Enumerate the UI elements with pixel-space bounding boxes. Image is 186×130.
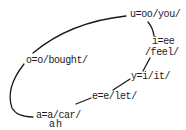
edge-e-a <box>76 98 91 104</box>
node-a-alt: ah <box>49 120 63 130</box>
node-y-label: y=i/it/ <box>131 72 170 82</box>
node-o-label: o=o/bought/ <box>26 56 88 66</box>
edge-u-i <box>148 22 154 36</box>
node-u-label: u=oo/you/ <box>130 10 180 20</box>
node-i-label: i=ee <box>152 37 174 47</box>
edge-o-u <box>33 16 126 53</box>
vowel-diagram: u=oo/you/ i=ee /feel/ o=o/bought/ y=i/it… <box>0 0 186 130</box>
edge-i-y <box>143 58 150 71</box>
edge-y-e <box>113 79 130 90</box>
edge-a-o <box>10 64 33 117</box>
node-e-label: e=e/let/ <box>92 92 137 102</box>
node-i-example: /feel/ <box>145 48 179 58</box>
